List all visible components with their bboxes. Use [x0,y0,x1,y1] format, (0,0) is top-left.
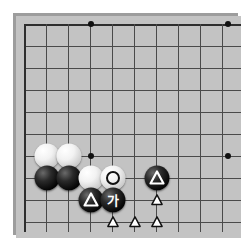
grid-line-horizontal-4 [24,112,241,113]
grid-line-horizontal-8 [24,200,241,201]
triangle-mark-icon [105,214,122,231]
black-stone-labeled: 가 [101,188,126,213]
grid-line-vertical-9 [222,24,223,232]
grid-line-vertical-7 [178,24,179,232]
grid-line-horizontal-0 [24,24,241,26]
triangle-mark-icon [149,192,166,209]
grid-line-vertical-8 [200,24,201,232]
grid-line-horizontal-2 [24,68,241,69]
grid-line-horizontal-1 [24,46,241,47]
hoshi-upper-left-icon [88,21,94,27]
grid-line-vertical-0 [24,24,26,232]
grid-line-vertical-1 [46,24,47,232]
go-board: 가 [16,16,241,238]
triangle-mark-icon [149,214,166,231]
stone-label: 가 [107,194,119,207]
grid-line-vertical-5 [134,24,135,232]
grid-line-vertical-2 [68,24,69,232]
hoshi-lower-right-icon [225,153,231,159]
hoshi-lower-left-icon [88,153,94,159]
black-stone-triangle-icon [145,166,170,191]
hoshi-upper-right-icon [225,21,231,27]
go-diagram-root: 가 [0,0,251,248]
grid-line-horizontal-5 [24,134,241,135]
grid-line-horizontal-3 [24,90,241,91]
triangle-mark-icon [127,214,144,231]
